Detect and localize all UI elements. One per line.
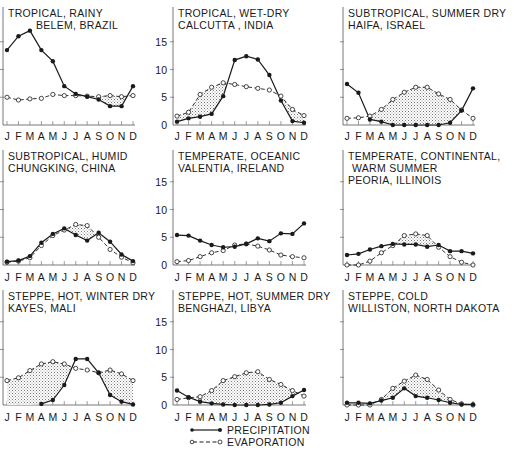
month-label: O <box>106 411 114 423</box>
precipitation-point <box>471 402 475 406</box>
precipitation-point <box>96 231 100 235</box>
precipitation-point <box>391 396 395 400</box>
evaporation-point <box>108 368 112 372</box>
month-label: A <box>254 411 261 423</box>
evaporation-point <box>210 251 214 255</box>
panel-subtitle: WILLISTON, NORTH DAKOTA <box>348 302 500 314</box>
evaporation-point <box>97 235 101 239</box>
month-label: M <box>219 411 228 423</box>
month-label: J <box>344 411 349 423</box>
precipitation-point <box>402 123 406 127</box>
evaporation-point <box>345 116 349 120</box>
precipitation-point <box>119 104 123 108</box>
month-label: J <box>244 411 249 423</box>
chart-panel: JFMAMJJASONDTROPICAL, RAINYBELEM, BRAZIL <box>0 7 137 142</box>
precipitation-point <box>256 403 260 407</box>
precipitation-point <box>471 251 475 255</box>
evaporation-point <box>108 93 112 97</box>
precipitation-point <box>436 398 440 402</box>
deficit-shading <box>189 94 201 118</box>
month-label: J <box>73 271 78 283</box>
month-label: M <box>366 130 375 142</box>
evaporation-point <box>244 371 248 375</box>
evaporation-point <box>131 378 135 382</box>
precipitation-point <box>267 73 271 77</box>
month-label: O <box>277 271 285 283</box>
precipitation-point <box>233 244 237 248</box>
precipitation-point <box>414 123 418 127</box>
panel-location: PEORIA, ILLINOIS <box>348 174 442 186</box>
month-label: S <box>95 130 102 142</box>
evaporation-point <box>302 394 306 398</box>
month-label: M <box>196 271 205 283</box>
evaporation-point <box>279 253 283 257</box>
deficit-shading <box>246 372 258 405</box>
evaporation-point <box>175 397 179 401</box>
evaporation-point <box>459 260 463 264</box>
evaporation-point <box>279 382 283 386</box>
precipitation-point <box>244 242 248 246</box>
evaporation-point <box>402 90 406 94</box>
legend-precipitation: PRECIPITATION <box>190 424 310 436</box>
legend-evaporation: EVAPORATION <box>190 436 304 448</box>
month-label: J <box>232 411 237 423</box>
evaporation-line <box>177 244 304 262</box>
precipitation-point <box>345 82 349 86</box>
precipitation-point <box>62 226 66 230</box>
chart-panel: 051015JFMAMJJASONDTROPICAL, WET-DRYCALCU… <box>155 7 308 142</box>
precipitation-point <box>425 244 429 248</box>
month-label: S <box>435 411 442 423</box>
evaporation-point <box>402 379 406 383</box>
month-label: A <box>208 411 215 423</box>
precipitation-point <box>391 242 395 246</box>
month-label: J <box>4 271 9 283</box>
legend-precipitation-label: PRECIPITATION <box>227 424 310 436</box>
evaporation-point <box>256 86 260 90</box>
month-label: S <box>266 411 273 423</box>
evaporation-point <box>85 368 89 372</box>
month-label: J <box>4 411 9 423</box>
precipitation-point <box>391 123 395 127</box>
month-label: A <box>84 271 91 283</box>
precipitation-point <box>209 401 213 405</box>
precipitation-point <box>290 119 294 123</box>
evaporation-point <box>39 362 43 366</box>
month-label: J <box>232 271 237 283</box>
month-label: O <box>106 130 114 142</box>
month-label: F <box>15 411 21 423</box>
month-label: S <box>95 271 102 283</box>
precipitation-point <box>85 357 89 361</box>
evaporation-point <box>379 251 383 255</box>
month-label: J <box>402 130 407 142</box>
chart-panel: 051015JFMAMJJASONDTEMPERATE, OCEANICVALE… <box>155 150 308 283</box>
month-label: A <box>424 271 431 283</box>
precipitation-point <box>402 242 406 246</box>
panel-title: STEPPE, HOT, WINTER DRY <box>8 290 155 302</box>
evaporation-point <box>221 378 225 382</box>
month-label: A <box>254 271 261 283</box>
panel-title: TEMPERATE, OCEANIC <box>178 150 301 162</box>
evaporation-point <box>368 259 372 263</box>
month-label: A <box>424 411 431 423</box>
evaporation-point <box>437 388 441 392</box>
panel-subtitle: BENGHAZI, LIBYA <box>178 302 271 314</box>
legend: PRECIPITATION EVAPORATION <box>190 424 310 448</box>
month-label: J <box>73 411 78 423</box>
month-label: J <box>232 130 237 142</box>
precipitation-point <box>221 94 225 98</box>
month-label: N <box>458 130 466 142</box>
precipitation-point <box>379 398 383 402</box>
precipitation-line <box>177 223 304 247</box>
y-tick-label: 10 <box>155 64 167 76</box>
month-label: J <box>174 271 179 283</box>
evaporation-point <box>471 116 475 120</box>
month-label: J <box>62 130 67 142</box>
precipitation-point <box>356 401 360 405</box>
y-tick-label: 15 <box>155 36 167 48</box>
precipitation-point <box>345 401 349 405</box>
precipitation-point <box>119 399 123 403</box>
filled-circle-marker-icon <box>218 428 222 432</box>
month-label: O <box>277 130 285 142</box>
evaporation-point <box>356 263 360 267</box>
evaporation-point <box>198 255 202 259</box>
